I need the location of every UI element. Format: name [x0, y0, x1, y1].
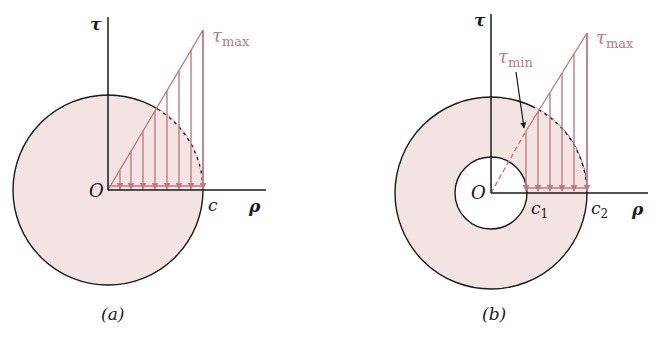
origin-label-a: O: [89, 180, 104, 201]
tau-max-label-b: τmax: [596, 27, 634, 51]
radius-label-c: c: [208, 195, 218, 215]
tau-axis-label-b: τ: [474, 10, 486, 30]
caption-a: (a): [101, 304, 124, 324]
rho-axis-label-a: ρ: [248, 196, 261, 216]
caption-b: (b): [482, 304, 506, 324]
outer-radius-label-c2: c2: [591, 198, 608, 221]
tau-max-label-a: τmax: [212, 25, 250, 49]
diagram-a-solid-shaft: τ O c ρ τmax (a): [13, 14, 266, 324]
tau-axis-label-a: τ: [90, 14, 102, 34]
tau-min-label-b: τmin: [498, 46, 533, 70]
shear-stress-distribution-figure: τ O c ρ τmax (a) τ: [0, 0, 656, 347]
origin-label-b: O: [471, 182, 486, 203]
diagram-b-hollow-shaft: τ O c1 c2 ρ τmax τmin (b): [395, 10, 648, 324]
rho-axis-label-b: ρ: [631, 199, 644, 219]
